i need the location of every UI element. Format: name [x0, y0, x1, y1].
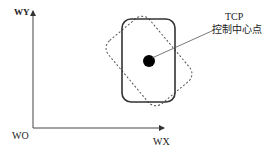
y-axis-label: WY — [14, 8, 30, 17]
leader-line — [152, 30, 214, 58]
tcp-center-point — [143, 55, 155, 67]
annotation-control-center: 控制中心点 — [212, 25, 262, 35]
annotation-tcp: TCP — [225, 12, 243, 22]
x-axis-label: WX — [153, 137, 170, 147]
origin-label: WO — [12, 131, 29, 141]
